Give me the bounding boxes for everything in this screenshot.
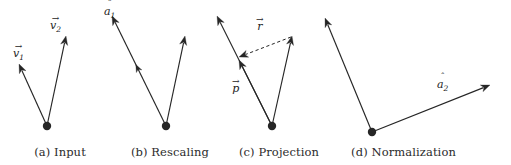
caption-input: (a) Input	[0, 145, 120, 159]
panel-input: (a) Input	[0, 0, 120, 165]
panel-rescaling: (b) Rescaling	[110, 0, 230, 165]
caption-normalization: (d) Normalization	[316, 145, 491, 159]
caption-rescaling: (b) Rescaling	[110, 145, 230, 159]
figure-root: →v1→v2ˆa1→p→rˆa2 (a) Input (b) Rescaling…	[0, 0, 511, 165]
panel-normalization: (d) Normalization	[316, 0, 491, 165]
